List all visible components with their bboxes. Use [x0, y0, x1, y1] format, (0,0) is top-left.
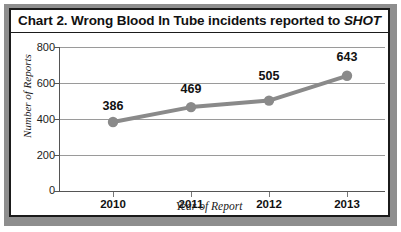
data-point-2013 — [342, 71, 352, 81]
data-point-2011 — [186, 102, 196, 112]
chart-title-text: Chart 2. Wrong Blood In Tube incidents r… — [18, 13, 344, 28]
x-axis-ticks — [114, 192, 348, 197]
gridlines — [59, 48, 385, 156]
data-point-2012 — [264, 95, 274, 105]
chart-screenshot: Chart 2. Wrong Blood In Tube incidents r… — [0, 0, 401, 232]
data-point-2010 — [108, 117, 118, 127]
y-axis-ticks — [54, 48, 59, 192]
plot-canvas — [11, 32, 392, 219]
chart-frame: Chart 2. Wrong Blood In Tube incidents r… — [9, 8, 390, 217]
series-line — [113, 76, 347, 122]
chart-title: Chart 2. Wrong Blood In Tube incidents r… — [11, 10, 388, 32]
chart-title-emphasis: SHOT — [344, 13, 381, 28]
series-markers — [108, 71, 352, 128]
plot-area: 800 600 400 200 0 2010 2011 2012 2013 38… — [11, 32, 388, 215]
